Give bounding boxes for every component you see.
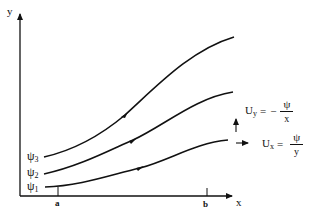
- flow-arrow-icon: [129, 138, 137, 144]
- fraction-psi-over-x: ψ x: [280, 98, 293, 124]
- equation-ux: Ux = ψ y: [262, 131, 303, 157]
- label-psi3: ψ3: [27, 150, 39, 164]
- streamline-psi2: [44, 92, 233, 174]
- tick-label-b: b: [203, 200, 208, 209]
- equals-sign: =: [260, 105, 266, 117]
- y-axis-label: y: [7, 6, 13, 17]
- fraction-psi-over-y: ψ y: [290, 131, 303, 157]
- equals-sign: =: [277, 138, 283, 150]
- streamline-psi3: [44, 37, 234, 157]
- tick-label-a: a: [55, 199, 60, 208]
- x-axis-label: x: [236, 197, 242, 208]
- flow-arrow-icon: [121, 112, 128, 118]
- label-psi1: ψ1: [27, 180, 39, 194]
- equation-uy: Uy = − ψ x: [245, 98, 293, 124]
- flow-arrow-icon: [136, 166, 144, 171]
- label-psi2: ψ2: [27, 166, 39, 180]
- equation-ux-lhs: Ux: [262, 137, 274, 151]
- equation-uy-lhs: Uy: [245, 104, 257, 118]
- minus-sign: −: [270, 105, 276, 117]
